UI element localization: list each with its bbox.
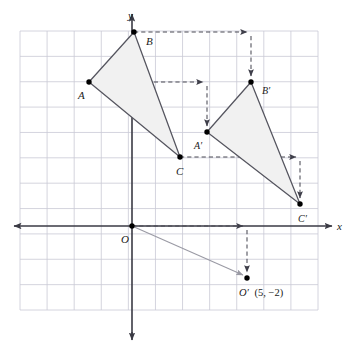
x-axis-label: x	[336, 220, 342, 232]
label-o: O	[121, 233, 129, 245]
coordinate-plane-figure: A B C A′ B′ C′ O x y O′ (5, −2)	[0, 0, 352, 345]
label-c-prime: C′	[298, 213, 308, 224]
point-o-prime	[244, 275, 249, 280]
label-c: C	[176, 165, 184, 177]
point-o	[129, 223, 134, 228]
geometry-svg: A B C A′ B′ C′ O x y O′ (5, −2)	[0, 0, 352, 345]
triangle-a-prime-b-prime-c-prime	[207, 82, 300, 204]
label-b: B	[146, 35, 153, 47]
point-a	[86, 79, 91, 84]
o-prime-annotation: O′ (5, −2)	[239, 287, 284, 299]
triangle-abc	[89, 32, 180, 157]
label-a-prime: A′	[193, 140, 203, 151]
o-prime-annotation-coords: (5, −2)	[255, 287, 284, 299]
translation-vector	[132, 226, 243, 275]
point-b	[131, 29, 136, 34]
label-a: A	[77, 89, 85, 101]
point-c-prime	[297, 201, 302, 206]
point-b-prime	[248, 79, 253, 84]
point-c	[177, 154, 182, 159]
point-a-prime	[204, 129, 209, 134]
label-b-prime: B′	[262, 85, 271, 96]
o-prime-annotation-label: O′	[239, 287, 250, 298]
y-axis-label: y	[127, 9, 133, 21]
